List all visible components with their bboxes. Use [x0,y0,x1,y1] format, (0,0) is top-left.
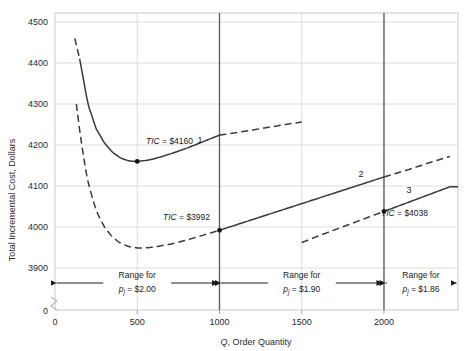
range-bar-2-price-value: = $1.90 [289,284,320,294]
x-tick-label: 0 [52,317,57,327]
tic-annotation-3-value: = $4038 [395,208,429,218]
y-axis-title: Total Incremental Cost, Dollars [7,138,17,261]
tic-annotation-1: TIC = $4160 [146,136,193,146]
x-axis-title-rest: , Order Quantity [227,337,292,347]
y-tick-label: 3900 [28,263,48,273]
x-axis-title: Q, Order Quantity [220,337,292,347]
curve-label-2: 2 [358,169,363,179]
y-tick-label: 4300 [28,99,48,109]
y-tick-label: 4200 [28,140,48,150]
tic-annotation-1-symbol: TIC [146,136,161,146]
y-axis-tick-labels: 4500440043004200410040003900 [28,17,48,273]
tic-annotation-1-value: = $4160 [160,136,194,146]
x-tick-label: 2000 [374,317,394,327]
range-bar-3-price-value: = $1.86 [409,284,440,294]
tic-annotation-3-symbol: TIC [381,208,396,218]
range-bar-1-title: Range for [119,270,156,280]
incremental-cost-chart: 4500440043004200410040003900 0 050010001… [0,0,468,351]
plot-frame [55,13,458,310]
tic-point-tic-2 [217,228,222,233]
y-tick-label: 4100 [28,181,48,191]
x-tick-label: 1500 [292,317,312,327]
y-tick-label: 4400 [28,58,48,68]
range-bar-2-title: Range for [283,270,320,280]
chart-figure: 4500440043004200410040003900 0 050010001… [0,0,468,351]
curve-label-1: 1 [197,135,202,145]
y-axis-zero-label: 0 [43,306,48,316]
tic-annotation-3: TIC = $4038 [381,208,428,218]
tic-annotation-2-value: = $3992 [177,212,211,222]
range-bar-3-title: Range for [402,270,439,280]
x-tick-label: 500 [130,317,145,327]
range-bar-1-price-value: = $2.00 [125,284,156,294]
tic-point-tic-1 [135,159,140,164]
tic-annotation-2-symbol: TIC [163,212,178,222]
y-tick-label: 4500 [28,17,48,27]
y-tick-label: 4000 [28,222,48,232]
curve-label-3: 3 [406,185,411,195]
tic-annotation-2: TIC = $3992 [163,212,210,222]
x-tick-label: 1000 [209,317,229,327]
x-axis-title-symbol: Q [220,337,227,347]
x-axis-tick-labels: 0500100015002000 [52,310,394,327]
